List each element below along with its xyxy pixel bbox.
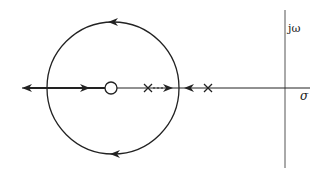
real-axis-label: σ	[300, 89, 308, 103]
imaginary-axis-label: jω	[288, 22, 300, 35]
zero-marker-icon	[105, 82, 117, 94]
root-locus-diagram	[0, 0, 326, 172]
